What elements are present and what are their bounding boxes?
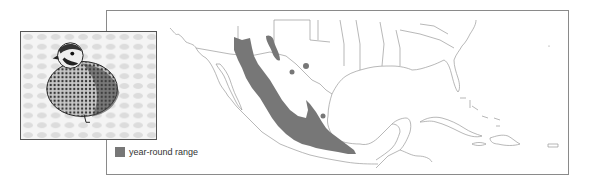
year-round-range [234, 35, 356, 154]
quail-illustration [20, 31, 157, 140]
map-legend: year-round range [115, 147, 198, 157]
range-swatch [115, 147, 125, 157]
legend-label: year-round range [129, 147, 198, 157]
bird-icon [21, 32, 156, 139]
